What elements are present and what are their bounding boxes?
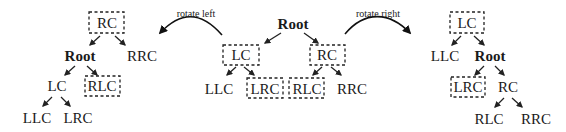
edge-lc-lrc	[244, 67, 254, 75]
node-root: Root	[278, 16, 309, 32]
edge-root-rc	[495, 66, 504, 75]
node-llc: LLC	[23, 110, 51, 126]
edge-root-rc	[304, 33, 318, 43]
edge-rc-rlc	[495, 98, 504, 107]
tree-center: Root LC RC LLC LRC RLC RRC	[205, 16, 367, 98]
edge-root-rlc	[87, 66, 97, 75]
node-rrc: RRC	[521, 111, 551, 127]
edge-lc-llc	[452, 36, 461, 45]
rotate-left-label: rotate left	[177, 8, 216, 19]
edge-rc-root	[90, 36, 100, 45]
node-rc: RC	[317, 47, 337, 63]
node-rlc: RLC	[292, 81, 321, 97]
tree-right: LC LLC Root LRC RC RLC RRC	[431, 12, 551, 127]
node-lrc: LRC	[250, 81, 279, 97]
curved-arrow-left-icon	[160, 17, 222, 35]
edge-rc-rlc	[313, 67, 322, 75]
node-rrc: RRC	[337, 81, 367, 97]
edge-rc-rrc	[331, 67, 341, 75]
edge-lc-llc	[227, 67, 236, 75]
node-rrc: RRC	[127, 48, 157, 64]
edge-root-lc	[65, 66, 75, 75]
node-lc: LC	[457, 15, 476, 31]
edge-rc-rrc	[512, 98, 522, 107]
node-llc: LLC	[431, 48, 459, 64]
node-lrc: LRC	[453, 79, 482, 95]
node-lc: LC	[47, 78, 66, 94]
node-lc: LC	[231, 47, 250, 63]
edge-lc-lrc	[61, 97, 70, 106]
rotate-right-label: rotate right	[356, 8, 400, 19]
edge-root-lrc	[475, 66, 484, 75]
node-root: Root	[65, 48, 96, 64]
curved-arrow-right-icon	[345, 17, 410, 34]
edge-rc-rrc	[115, 36, 125, 45]
edge-lc-root	[474, 36, 484, 45]
node-rc: RC	[97, 15, 117, 31]
rotation-diagram: RC Root RRC LC RLC LLC LRC rotate left R…	[0, 0, 566, 132]
tree-left: RC Root RRC LC RLC LLC LRC	[23, 12, 157, 126]
rotate-right-arrow: rotate right	[345, 8, 410, 34]
rotate-left-arrow: rotate left	[160, 8, 222, 35]
node-llc: LLC	[205, 81, 233, 97]
edge-root-lc	[265, 33, 281, 43]
node-rlc: RLC	[474, 111, 503, 127]
node-lrc: LRC	[63, 110, 92, 126]
node-root: Root	[475, 48, 506, 64]
node-rc: RC	[498, 79, 518, 95]
node-rlc: RLC	[87, 78, 116, 94]
edge-lc-llc	[43, 97, 52, 106]
